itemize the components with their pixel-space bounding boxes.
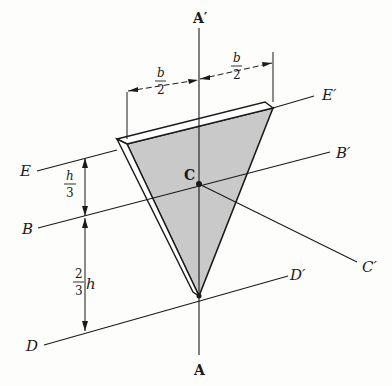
svg-text:3: 3 xyxy=(66,186,74,200)
frac-2h3: 2 3 h xyxy=(73,267,96,298)
axis-EE xyxy=(37,150,117,171)
label-A-prime: A′ xyxy=(192,10,208,26)
triangle-diagram: A′ A E E′ B B′ C C′ D D′ b 2 b 2 h 3 2 3… xyxy=(0,0,392,386)
svg-text:2: 2 xyxy=(233,68,241,82)
label-E: E xyxy=(19,162,31,180)
svg-text:3: 3 xyxy=(75,284,83,298)
svg-text:2: 2 xyxy=(157,83,165,97)
label-D-prime: D′ xyxy=(289,266,306,284)
label-B: B xyxy=(21,220,33,238)
label-A: A xyxy=(193,362,206,378)
svg-text:b: b xyxy=(233,51,241,65)
svg-text:b: b xyxy=(157,66,165,80)
label-C: C xyxy=(184,167,195,183)
frac-h3: h 3 xyxy=(64,169,76,200)
centroid-point xyxy=(196,181,202,187)
label-B-prime: B′ xyxy=(335,144,351,162)
label-D: D xyxy=(25,337,38,355)
label-C-prime: C′ xyxy=(362,258,377,276)
svg-text:2: 2 xyxy=(75,267,83,281)
frac-b2-right: b 2 xyxy=(231,51,242,82)
svg-text:h: h xyxy=(66,169,74,183)
label-E-prime: E′ xyxy=(321,86,337,104)
frac-b2-left: b 2 xyxy=(155,66,166,97)
svg-text:h: h xyxy=(86,275,96,293)
